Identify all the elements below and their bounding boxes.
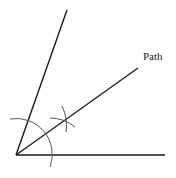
bisector-ray: [16, 68, 138, 155]
compass-arc-vertex: [10, 118, 52, 167]
compass-arc-upper: [62, 106, 67, 132]
angle-bisector-diagram: [0, 0, 176, 178]
bisector-label: Path: [143, 50, 163, 62]
upper-ray: [16, 10, 67, 155]
